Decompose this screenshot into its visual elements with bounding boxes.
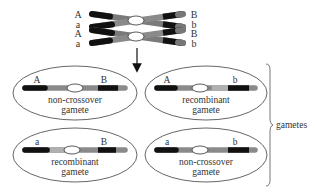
- gamete-2-type-line2: gamete: [192, 105, 219, 115]
- gamete-1: A B non-crossover gamete: [13, 66, 137, 120]
- gamete-1-right-allele: B: [101, 75, 107, 85]
- parent-chromosomes: A a A a B b B b: [74, 9, 197, 49]
- chromosome-pair-2: [92, 30, 183, 43]
- crossover-diagram: A a A a B b B b A B non-crossover gamete…: [0, 0, 317, 192]
- gamete-3-type-line2: gamete: [61, 167, 88, 177]
- gamete-4-right-allele: b: [233, 137, 238, 147]
- gamete-2-left-allele: A: [164, 75, 171, 85]
- gamete-2: A b recombinant gamete: [145, 66, 267, 120]
- gamete-1-type-line1: non-crossover: [48, 95, 103, 105]
- centromere: [128, 32, 144, 41]
- gamete-3: a B recombinant gamete: [13, 128, 137, 182]
- chromosome-pair-1: [92, 14, 183, 27]
- gamete-4-type-line1: non-crossover: [179, 157, 234, 167]
- allele-label-right-4: b: [192, 38, 197, 49]
- gamete-4: a b non-crossover gamete: [145, 128, 267, 182]
- allele-label-left-4: a: [76, 38, 81, 49]
- brace-icon: [266, 64, 273, 186]
- gamete-4-type-line2: gamete: [192, 167, 219, 177]
- centromere: [128, 16, 144, 25]
- gamete-1-type-line2: gamete: [61, 105, 88, 115]
- gamete-3-type-line1: recombinant: [51, 157, 99, 167]
- gamete-2-right-allele: b: [233, 75, 238, 85]
- gamete-2-type-line1: recombinant: [182, 95, 230, 105]
- gamete-1-left-allele: A: [34, 75, 41, 85]
- gamete-3-right-allele: B: [101, 137, 107, 147]
- gametes-brace-label: gametes: [276, 120, 307, 130]
